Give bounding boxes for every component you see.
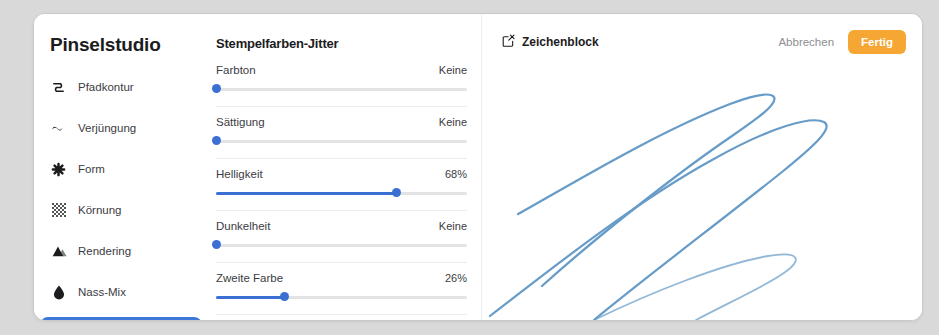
path-outline-icon — [50, 79, 67, 96]
slider-value: Keine — [439, 64, 467, 76]
brush-studio-window: Pinselstudio Pfadkontur Verjüngung — [33, 13, 923, 321]
slider-knob[interactable] — [212, 240, 221, 249]
row-divider — [216, 314, 467, 315]
slider-value: 26% — [445, 272, 467, 284]
cancel-button[interactable]: Abbrechen — [778, 36, 834, 48]
slider-row-zweite-farbe: Zweite Farbe 26% — [216, 272, 481, 314]
sidebar-item-label: Nass-Mix — [78, 286, 126, 298]
slider-knob[interactable] — [280, 292, 289, 301]
water-drop-icon — [50, 284, 67, 301]
slider-knob[interactable] — [212, 84, 221, 93]
slider-row-saettigung: Sättigung Keine — [216, 116, 481, 158]
slider-fill — [216, 296, 285, 299]
slider-row-dunkelheit: Dunkelheit Keine — [216, 220, 481, 262]
document-title-group[interactable]: Zeichenblock — [502, 33, 599, 51]
sidebar-item-form[interactable]: Form — [40, 153, 202, 185]
brush-strokes — [482, 64, 922, 320]
sidebar: Pinselstudio Pfadkontur Verjüngung — [34, 14, 208, 320]
slider-track — [216, 140, 467, 143]
settings-panel: Stempelfarben-Jitter Farbton Keine Sätti… — [208, 14, 481, 320]
header-actions: Abbrechen Fertig — [778, 30, 906, 54]
slider-dunkelheit[interactable] — [216, 238, 481, 252]
taper-wave-icon — [50, 120, 67, 137]
slider-knob[interactable] — [392, 188, 401, 197]
document-name: Zeichenblock — [522, 35, 599, 49]
slider-zweite-farbe[interactable] — [216, 290, 481, 304]
slider-label: Dunkelheit — [216, 220, 270, 232]
row-divider — [216, 262, 467, 263]
section-title-stempelfarben: Stempelfarben-Jitter — [216, 14, 481, 51]
sidebar-item-koernung[interactable]: Körnung — [40, 194, 202, 226]
grain-grid-icon — [50, 202, 67, 219]
app-title: Pinselstudio — [34, 14, 208, 56]
sidebar-item-label: Rendering — [78, 245, 131, 257]
slider-label: Helligkeit — [216, 168, 263, 180]
row-divider — [216, 106, 467, 107]
slider-label: Sättigung — [216, 116, 265, 128]
canvas-header: Zeichenblock Abbrechen Fertig — [482, 14, 922, 70]
slider-value: 68% — [445, 168, 467, 180]
slider-track — [216, 244, 467, 247]
row-divider — [216, 210, 467, 211]
slider-label: Farbton — [216, 64, 256, 76]
done-button[interactable]: Fertig — [848, 30, 906, 54]
shape-asterisk-icon — [50, 161, 67, 178]
sidebar-item-label: Verjüngung — [78, 122, 136, 134]
sidebar-item-verjuengung[interactable]: Verjüngung — [40, 112, 202, 144]
sidebar-item-label: Form — [78, 163, 105, 175]
sidebar-item-label: Pfadkontur — [78, 81, 134, 93]
rendering-mountain-icon — [50, 243, 67, 260]
slider-farbton[interactable] — [216, 82, 481, 96]
sidebar-nav: Pfadkontur Verjüngung — [34, 71, 208, 321]
slider-value: Keine — [439, 116, 467, 128]
sidebar-item-label: Körnung — [78, 204, 121, 216]
slider-saettigung[interactable] — [216, 134, 481, 148]
drawing-canvas[interactable] — [482, 64, 922, 320]
sidebar-item-pfadkontur[interactable]: Pfadkontur — [40, 71, 202, 103]
slider-label: Zweite Farbe — [216, 272, 283, 284]
edit-square-icon — [502, 33, 515, 51]
canvas-area: Zeichenblock Abbrechen Fertig — [481, 14, 922, 320]
slider-knob[interactable] — [212, 136, 221, 145]
slider-track — [216, 88, 467, 91]
slider-helligkeit[interactable] — [216, 186, 481, 200]
slider-row-farbton: Farbton Keine — [216, 64, 481, 106]
sidebar-item-rendering[interactable]: Rendering — [40, 235, 202, 267]
sidebar-item-farbdynamik[interactable]: Farbdynamik — [40, 317, 202, 321]
row-divider — [216, 158, 467, 159]
slider-fill — [216, 192, 396, 195]
slider-row-helligkeit: Helligkeit 68% — [216, 168, 481, 210]
sidebar-item-nass-mix[interactable]: Nass-Mix — [40, 276, 202, 308]
slider-value: Keine — [439, 220, 467, 232]
